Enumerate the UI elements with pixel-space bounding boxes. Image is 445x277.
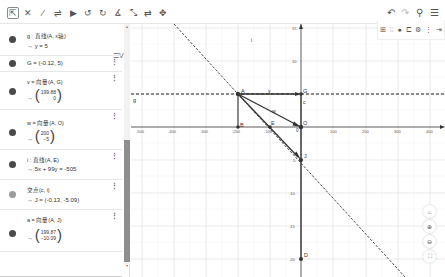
vector-label-w: w (272, 108, 276, 114)
circle-tool-button[interactable]: ↺ (82, 7, 94, 19)
axes-toggle-icon[interactable]: ⊞ (380, 26, 386, 34)
graph-canvas (131, 24, 445, 277)
reflect-tool-button[interactable]: ⤡ (127, 7, 139, 19)
algebra-item-point-g[interactable]: G = (-0.12, 5) ⋮ (0, 56, 122, 72)
zoom-in-button[interactable]: ⊕ (423, 220, 436, 233)
visibility-toggle[interactable] (9, 191, 16, 198)
point-label-o: O (303, 120, 307, 126)
segment-label-c: c (303, 99, 306, 105)
settings-icon[interactable]: ⚙ (415, 26, 421, 34)
circle-points-tool-button[interactable]: ↻ (97, 7, 109, 19)
vector-value: (199.87−10.09) (35, 227, 62, 242)
point-label-d: D (304, 252, 308, 258)
visibility-toggle[interactable] (9, 230, 16, 237)
toggle-style-bar-icon[interactable]: ⇥ (436, 26, 442, 34)
search-button[interactable]: ⚲ (413, 6, 426, 19)
graphics-view[interactable]: A G B O E J D g v w c i 0 -500 -400 -300… (131, 24, 445, 277)
line-label-i: i (251, 37, 252, 43)
x-tick-label: 400 (426, 129, 433, 134)
y-axis-arrow (299, 24, 303, 29)
move-tool-button[interactable]: ⇱ (7, 7, 19, 19)
menu-button[interactable]: ☰ (428, 6, 441, 19)
reflect-icon: ⤡ (130, 8, 137, 19)
y-tick-label: -10 (289, 191, 295, 196)
major-grid (131, 24, 445, 277)
visibility-toggle[interactable] (9, 161, 16, 168)
visibility-toggle[interactable] (9, 88, 16, 95)
redo-icon: ↷ (401, 7, 409, 18)
fullscreen-button[interactable]: ⛶ (423, 250, 436, 263)
undo-icon: ↶ (387, 7, 395, 18)
standard-view-button[interactable]: ⌂ (423, 205, 436, 218)
item-result: → 5x + 99y = -505 (27, 166, 76, 172)
item-definition: 交点(c, i) (27, 186, 50, 194)
item-menu-icon[interactable]: ⋮ (111, 152, 118, 160)
redo-button[interactable]: ↷ (398, 6, 411, 19)
item-definition: g : 直线(A, x轴) (27, 32, 66, 40)
point-tool-button[interactable]: ✕ (22, 7, 34, 19)
visibility-toggle[interactable] (9, 129, 16, 136)
label-style-icon[interactable]: ⊏ (406, 26, 412, 34)
algebra-item-line-i[interactable]: i : 直线(A, E) → 5x + 99y = -505 ⋮ (0, 150, 122, 180)
algebra-item-vector-a[interactable]: a = 向量(A, J) → (199.87−10.09) ⋮ (0, 210, 122, 252)
item-result: → J = (-0.13, -5.09) (27, 197, 79, 203)
slider-tool-button[interactable]: ⇄ (142, 7, 154, 19)
line-tool-button[interactable]: ⁄ (37, 7, 49, 19)
y-tick-label: 10 (292, 59, 296, 64)
graphics-style-bar: ⊞ ⁞⁞ ● ⊏ ⚙ ⋮ ⇥ (377, 20, 445, 40)
triangle-icon: ▶ (70, 8, 77, 18)
point-label-b: B (240, 122, 244, 128)
zoom-in-icon: ⊕ (427, 223, 432, 230)
visibility-toggle[interactable] (9, 36, 16, 43)
undo-button[interactable]: ↶ (384, 6, 397, 19)
move-view-tool-button[interactable]: ✥ (157, 7, 169, 19)
item-menu-icon[interactable]: ⋮ (111, 74, 118, 82)
more-options-icon[interactable]: ⋮ (425, 26, 432, 34)
x-tick-label: -300 (200, 129, 208, 134)
item-menu-icon[interactable]: ⋮ (111, 182, 118, 190)
circle-arc-icon: ↺ (84, 8, 92, 18)
y-tick-label: -15 (289, 224, 295, 229)
scroll-up-arrow[interactable]: ▴ (124, 24, 130, 30)
item-menu-icon[interactable]: ⋮ (111, 112, 118, 120)
zoom-out-icon: ⊖ (427, 238, 432, 245)
y-tick-label: -5 (292, 158, 296, 163)
algebra-scrollbar-thumb[interactable] (124, 140, 130, 262)
algebra-item-line-g[interactable]: g : 直线(A, x轴) → y = 5 (0, 24, 122, 56)
home-icon: ⌂ (428, 209, 432, 215)
polygon-tool-button[interactable]: ▶ (67, 7, 79, 19)
item-result: → y = 5 (27, 43, 48, 49)
visibility-toggle[interactable] (9, 60, 16, 67)
point-capture-icon[interactable]: ● (397, 26, 401, 33)
vector-w (238, 94, 297, 125)
item-definition: a = 向量(A, J) (27, 216, 61, 224)
move-view-icon: ✥ (159, 8, 167, 18)
algebra-item-vector-w[interactable]: w = 向量(A, O) → (200−5) ⋮ (0, 110, 122, 150)
algebra-item-intersection-j[interactable]: 交点(c, i) → J = (-0.13, -5.09) ⋮ (0, 180, 122, 210)
origin-label: 0 (296, 128, 299, 133)
line-label-g: g (133, 97, 136, 103)
zoom-out-button[interactable]: ⊖ (423, 235, 436, 248)
angle-tool-button[interactable]: ∡ (112, 7, 124, 19)
algebra-view: ☰V g : 直线(A, x轴) → y = 5 G = (-0.12, 5) … (0, 24, 130, 277)
scroll-down-arrow[interactable]: ▾ (124, 263, 130, 269)
item-menu-icon[interactable]: ⋮ (111, 212, 118, 220)
vector-value: (199.880) (35, 87, 62, 102)
grid-toggle-icon[interactable]: ⁞⁞ (390, 26, 394, 33)
x-tick-label: -100 (264, 129, 272, 134)
slider-icon: ⇄ (144, 8, 152, 18)
cursor-icon: ⇱ (9, 8, 17, 18)
algebra-item-vector-v[interactable]: v = 向量(A, G) → (199.880) ⋮ (0, 72, 122, 110)
x-tick-label: 200 (362, 129, 369, 134)
x-tick-label: 100 (330, 129, 337, 134)
item-menu-icon[interactable]: ⋮ (111, 58, 118, 66)
parallel-line-tool-button[interactable]: ⇌ (52, 7, 64, 19)
point-label-g: G (303, 88, 307, 94)
item-result: → (199.87−10.09) (27, 227, 62, 242)
point-label-a: A (241, 88, 245, 94)
point-label-e: E (271, 120, 275, 126)
item-definition: G = (-0.12, 5) (27, 60, 63, 66)
x-axis-arrow (440, 125, 445, 129)
search-icon: ⚲ (416, 7, 423, 18)
intersect-icon: ✕ (24, 8, 32, 18)
